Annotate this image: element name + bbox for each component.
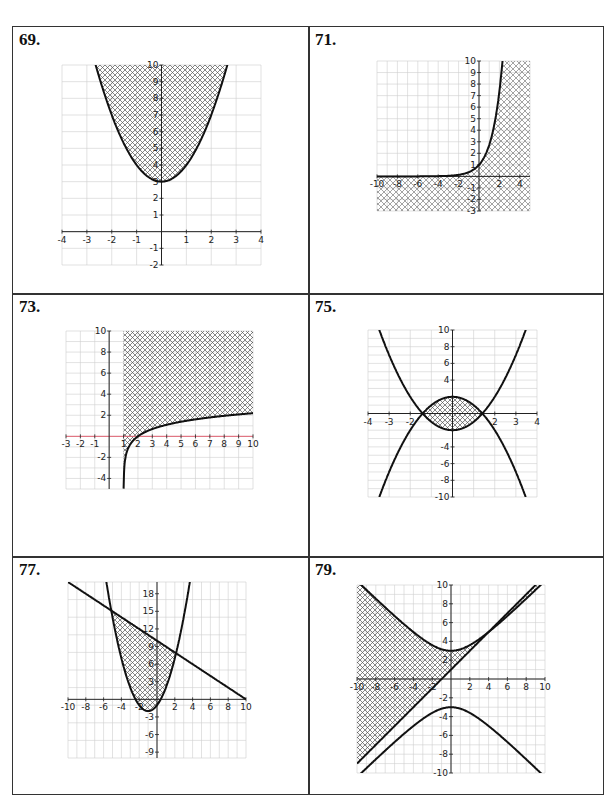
y-tick-label: 6 — [153, 127, 159, 137]
y-tick-label: 6 — [444, 358, 450, 368]
x-tick-label: -1 — [132, 235, 141, 245]
y-tick-label: 3 — [148, 677, 154, 687]
y-tick-label: 3 — [470, 137, 476, 147]
x-tick-label: 7 — [207, 439, 213, 449]
x-tick-label: -8 — [371, 682, 380, 692]
y-tick-label: -1 — [467, 183, 476, 193]
x-tick-label: -6 — [390, 682, 399, 692]
x-tick-label: -6 — [99, 702, 108, 712]
x-tick-label: -2 — [76, 439, 85, 449]
graph-79: -10-8-6-4-2246810-10-8-6-4-2246810 — [350, 576, 551, 778]
x-tick-label: 3 — [513, 417, 519, 427]
y-tick-label: 6 — [100, 368, 106, 378]
y-tick-label: -8 — [439, 749, 448, 759]
y-tick-label: 10 — [95, 326, 107, 336]
x-tick-label: 3 — [149, 439, 155, 449]
x-tick-label: 4 — [258, 235, 264, 245]
y-tick-label: -4 — [441, 442, 450, 452]
x-tick-label: -4 — [58, 235, 67, 245]
x-tick-label: 5 — [178, 439, 184, 449]
y-tick-label: 10 — [438, 325, 450, 335]
x-tick-label: -1 — [90, 439, 99, 449]
y-tick-label: -2 — [150, 260, 159, 270]
x-tick-label: 6 — [193, 439, 199, 449]
y-tick-label: 9 — [148, 642, 154, 652]
x-tick-label: -4 — [409, 682, 418, 692]
y-tick-label: -9 — [145, 747, 154, 757]
y-tick-label: -2 — [467, 194, 476, 204]
x-tick-label: 10 — [240, 702, 252, 712]
y-tick-label: 8 — [470, 79, 476, 89]
y-tick-label: 8 — [100, 347, 106, 357]
y-tick-label: -3 — [467, 206, 476, 216]
y-tick-label: 9 — [153, 77, 159, 87]
x-tick-label: 2 — [172, 702, 178, 712]
y-tick-label: 15 — [143, 606, 154, 616]
x-tick-label: 8 — [225, 702, 231, 712]
graph-71: -10-8-6-4-224-3-2-112345678910 — [370, 38, 530, 216]
y-tick-label: 4 — [100, 389, 106, 399]
x-tick-label: -10 — [350, 682, 365, 692]
x-tick-label: -3 — [62, 439, 71, 449]
graph-77: -10-8-6-4-2246810-9-6-3369121518 — [61, 570, 252, 758]
y-tick-label: -10 — [435, 492, 450, 502]
y-tick-label: 8 — [442, 599, 448, 609]
x-tick-label: -3 — [385, 417, 394, 427]
x-tick-label: -10 — [61, 702, 76, 712]
y-tick-label: -6 — [441, 459, 450, 469]
y-tick-label: 9 — [470, 68, 476, 78]
x-tick-label: 4 — [517, 179, 523, 189]
y-tick-label: -2 — [97, 452, 106, 462]
x-tick-label: -4 — [117, 702, 126, 712]
y-tick-label: 6 — [470, 102, 476, 112]
x-tick-label: 3 — [233, 235, 239, 245]
x-tick-label: 2 — [208, 235, 214, 245]
y-tick-label: -4 — [97, 473, 106, 483]
y-tick-label: -10 — [433, 768, 448, 778]
x-tick-label: 4 — [486, 682, 492, 692]
y-tick-label: 18 — [143, 589, 155, 599]
y-tick-label: 8 — [444, 342, 450, 352]
x-tick-label: 8 — [221, 439, 227, 449]
graph-75: -4-3-2234-10-8-6-446810 — [364, 313, 541, 513]
y-tick-label: 6 — [442, 618, 448, 628]
x-tick-label: 1 — [184, 235, 190, 245]
x-tick-label: 10 — [247, 439, 259, 449]
x-tick-label: -8 — [81, 702, 90, 712]
x-tick-label: -8 — [393, 179, 402, 189]
y-tick-label: 2 — [442, 655, 448, 665]
y-tick-label: 8 — [153, 93, 159, 103]
y-tick-label: -4 — [439, 712, 448, 722]
y-tick-label: 2 — [470, 148, 476, 158]
graph-73: -3-2-112345678910-4-2246810 — [62, 326, 259, 489]
x-tick-label: 4 — [190, 702, 196, 712]
x-tick-label: 2 — [497, 179, 503, 189]
y-tick-label: -6 — [145, 730, 154, 740]
y-tick-label: 10 — [147, 60, 159, 70]
y-tick-label: 7 — [153, 110, 159, 120]
y-tick-label: 1 — [153, 210, 159, 220]
x-tick-label: 10 — [539, 682, 551, 692]
x-tick-label: 2 — [492, 417, 498, 427]
y-tick-label: 2 — [100, 410, 106, 420]
x-tick-label: 2 — [467, 682, 473, 692]
x-tick-label: -2 — [454, 179, 463, 189]
y-tick-label: 6 — [148, 659, 154, 669]
y-tick-label: 4 — [444, 375, 450, 385]
x-tick-label: -4 — [364, 417, 373, 427]
y-tick-label: -3 — [145, 712, 154, 722]
y-tick-label: 4 — [153, 160, 159, 170]
x-tick-label: 4 — [164, 439, 170, 449]
x-tick-label: 8 — [523, 682, 529, 692]
y-tick-label: 5 — [153, 143, 159, 153]
y-tick-label: -1 — [150, 243, 159, 253]
x-tick-label: 9 — [236, 439, 242, 449]
y-tick-label: -2 — [439, 693, 448, 703]
x-tick-label: 6 — [208, 702, 214, 712]
x-tick-label: -6 — [413, 179, 422, 189]
x-tick-label: 2 — [135, 439, 141, 449]
y-tick-label: -8 — [441, 475, 450, 485]
x-tick-label: 6 — [505, 682, 511, 692]
x-tick-label: -4 — [434, 179, 443, 189]
y-tick-label: 5 — [470, 114, 476, 124]
